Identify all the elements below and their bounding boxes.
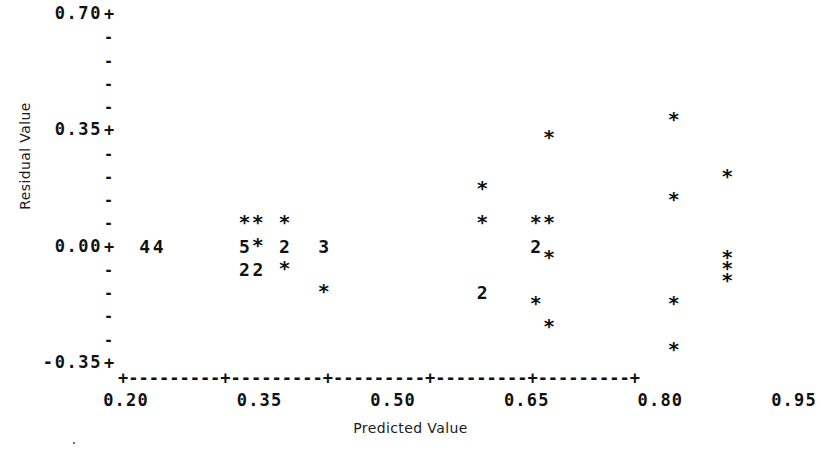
x-axis-tick-label: 0.20 bbox=[91, 392, 161, 408]
x-axis-tick-label: 0.65 bbox=[492, 392, 562, 408]
y-axis-tick-label: 0.35 bbox=[20, 124, 102, 134]
data-point-marker: * bbox=[541, 216, 557, 228]
x-axis-label: Predicted Value bbox=[0, 420, 821, 436]
data-point-marker: * bbox=[541, 320, 557, 332]
y-axis-tick-label: -0.35 bbox=[20, 357, 102, 367]
data-point-marker: * bbox=[666, 193, 682, 205]
data-point-marker: * bbox=[666, 297, 682, 309]
data-point-count-marker: 2 bbox=[277, 241, 293, 253]
y-axis-minor-tick: - bbox=[104, 79, 122, 89]
y-axis-minor-tick: - bbox=[104, 265, 122, 275]
data-point-marker: * bbox=[719, 274, 735, 286]
x-axis-tick-label: 0.80 bbox=[625, 392, 695, 408]
data-point-count-marker: 3 bbox=[316, 241, 332, 253]
data-point-marker: * bbox=[719, 170, 735, 182]
y-axis-major-tick: + bbox=[104, 358, 122, 368]
y-axis-tick-label: 0.00 bbox=[20, 241, 102, 251]
data-point-count-marker: 2 bbox=[474, 287, 490, 299]
data-point-count-marker: 2 bbox=[250, 264, 266, 276]
data-point-marker: * bbox=[666, 113, 682, 125]
data-point-marker: * bbox=[250, 216, 266, 228]
y-axis-minor-tick: - bbox=[104, 335, 122, 345]
y-axis-minor-tick: - bbox=[104, 288, 122, 298]
data-point-marker: * bbox=[541, 251, 557, 263]
data-point-marker: * bbox=[474, 182, 490, 194]
data-point-marker: * bbox=[277, 262, 293, 274]
y-axis-minor-tick: - bbox=[104, 149, 122, 159]
x-axis-tick-label: 0.95 bbox=[759, 392, 821, 408]
data-point-marker: * bbox=[541, 131, 557, 143]
data-point-marker: * bbox=[528, 297, 544, 309]
data-point-count-marker: 4 bbox=[150, 241, 166, 253]
x-axis-line: +---------+---------+---------+---------… bbox=[118, 373, 640, 383]
y-axis-major-tick: + bbox=[104, 9, 122, 19]
residual-plot: Residual Value Predicted Value +0.70----… bbox=[0, 0, 821, 450]
data-point-marker: * bbox=[316, 285, 332, 297]
data-point-marker: * bbox=[277, 216, 293, 228]
y-axis-tick-label: 0.70 bbox=[20, 8, 102, 18]
x-axis-tick-label: 0.50 bbox=[358, 392, 428, 408]
y-axis-minor-tick: - bbox=[104, 218, 122, 228]
y-axis-minor-tick: - bbox=[104, 311, 122, 321]
data-point-marker: * bbox=[250, 239, 266, 251]
y-axis-minor-tick: - bbox=[104, 32, 122, 42]
y-axis-minor-tick: - bbox=[104, 56, 122, 66]
y-axis-major-tick: + bbox=[104, 242, 122, 252]
stray-mark: . bbox=[70, 436, 78, 444]
y-axis-label: Residual Value bbox=[17, 86, 33, 226]
y-axis-minor-tick: - bbox=[104, 102, 122, 112]
y-axis-minor-tick: - bbox=[104, 195, 122, 205]
data-point-marker: * bbox=[474, 216, 490, 228]
data-point-marker: * bbox=[666, 343, 682, 355]
x-axis-tick-label: 0.35 bbox=[225, 392, 295, 408]
y-axis-minor-tick: - bbox=[104, 172, 122, 182]
y-axis-major-tick: + bbox=[104, 125, 122, 135]
